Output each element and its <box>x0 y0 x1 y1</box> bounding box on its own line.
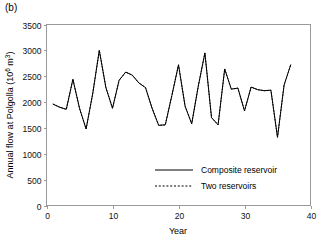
x-tick-label: 20 <box>175 211 185 221</box>
y-tick-label: 1000 <box>23 150 42 160</box>
y-tick-label: 2000 <box>23 98 42 108</box>
x-tick-label: 40 <box>307 211 317 221</box>
svg-text:Annual flow at Polgolla (106 m: Annual flow at Polgolla (106 m3) <box>4 52 16 179</box>
y-axis-title: Annual flow at Polgolla (106 m3) <box>4 52 16 179</box>
legend-label: Composite reservoir <box>201 165 277 175</box>
y-tick-label: 2500 <box>23 72 42 82</box>
x-axis: 010203040 <box>45 206 316 221</box>
y-axis-title-tail: m <box>5 58 15 68</box>
x-axis-title: Year <box>169 226 187 236</box>
line-chart: 0500100015002000250030003500 010203040 C… <box>0 0 324 239</box>
x-tick-label: 10 <box>109 211 119 221</box>
y-axis: 0500100015002000250030003500 <box>23 21 47 212</box>
y-tick-label: 3000 <box>23 46 42 56</box>
data-series-group <box>53 50 291 137</box>
y-axis-title-close: ) <box>5 52 15 55</box>
y-tick-label: 0 <box>37 202 42 212</box>
y-tick-label: 500 <box>27 176 41 186</box>
figure-container: (b) 0500100015002000250030003500 0102030… <box>0 0 324 239</box>
plot-frame <box>47 25 311 206</box>
legend-label: Two reservoirs <box>201 181 256 191</box>
panel-label: (b) <box>5 2 17 14</box>
chart-legend: Composite reservoirTwo reservoirs <box>155 165 277 191</box>
x-tick-label: 30 <box>241 211 251 221</box>
x-tick-label: 0 <box>45 211 50 221</box>
y-tick-label: 1500 <box>23 124 42 134</box>
y-tick-label: 3500 <box>23 21 42 31</box>
y-axis-title-main: Annual flow at Polgolla (10 <box>5 72 15 179</box>
series-dashed <box>53 50 291 137</box>
